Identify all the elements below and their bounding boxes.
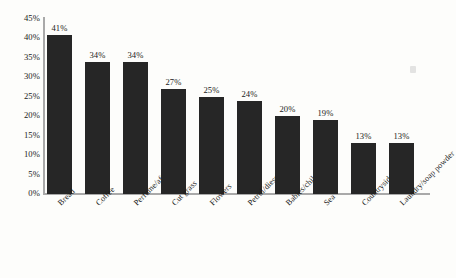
bar: [161, 89, 186, 194]
bar-value-label: 20%: [268, 104, 308, 114]
bar: [199, 97, 224, 194]
bar-value-label: 25%: [192, 85, 232, 95]
bar-value-label: 34%: [78, 50, 118, 60]
bar: [275, 116, 300, 194]
bar: [389, 143, 414, 194]
bar-value-label: 24%: [230, 89, 270, 99]
scan-artifact-speck: [410, 66, 416, 73]
bar: [313, 120, 338, 194]
bar-value-label: 27%: [154, 77, 194, 87]
bar: [47, 35, 72, 194]
bar-value-label: 13%: [382, 131, 422, 141]
bar: [85, 62, 110, 194]
bar: [123, 62, 148, 194]
x-axis-category-label: Sea: [322, 192, 337, 207]
bar: [351, 143, 376, 194]
bar: [237, 101, 262, 194]
bar-value-label: 41%: [40, 23, 80, 33]
bar-value-label: 34%: [116, 50, 156, 60]
bar-value-label: 13%: [344, 131, 384, 141]
bar-value-label: 19%: [306, 108, 346, 118]
